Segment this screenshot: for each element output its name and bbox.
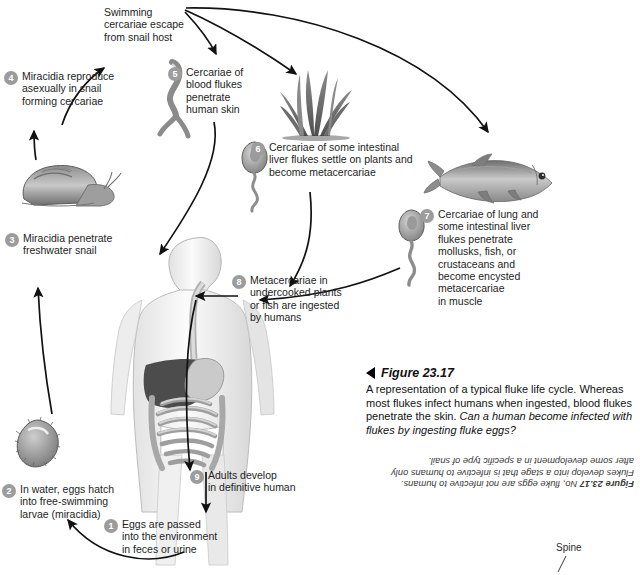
step-3-badge: 3 — [5, 233, 19, 247]
step-6-badge: 6 — [251, 142, 265, 156]
step-3: 3 Miracidia penetrate freshwater snail — [5, 232, 123, 257]
step-9-badge: 9 — [190, 470, 204, 484]
step-1-label: Eggs are passed into the environment in … — [122, 518, 217, 555]
aquatic-plant-illustration — [280, 70, 352, 141]
step-3-label: Miracidia penetrate freshwater snail — [23, 232, 112, 257]
step-7-label: Cercariae of lung and some intestinal li… — [438, 208, 538, 307]
step-6-label: Cercariae of some intestinal liver fluke… — [269, 141, 413, 178]
step-5-badge: 5 — [168, 67, 182, 81]
step-8: 8 Metacercariae in undercooked plants or… — [232, 274, 346, 324]
step-2-label: In water, eggs hatch into free-swimming … — [20, 483, 114, 520]
fish-illustration — [424, 154, 552, 203]
figure-caption-header: Figure 23.17 — [366, 366, 634, 380]
step-1: 1 Eggs are passed into the environment i… — [104, 518, 224, 555]
step-2: 2 In water, eggs hatch into free-swimmin… — [2, 483, 126, 520]
figure-caption: Figure 23.17 A representation of a typic… — [366, 366, 634, 437]
step-4-label: Miracidia reproduce asexually in snail f… — [22, 70, 114, 107]
step-7-badge: 7 — [420, 209, 434, 223]
figure-description-block: A representation of a typical fluke life… — [366, 383, 634, 437]
figure-answer-label: Figure 23.17 — [580, 479, 634, 489]
step-2-badge: 2 — [2, 484, 16, 498]
step-8-label: Metacercariae in undercooked plants or f… — [250, 274, 342, 324]
step-7: 7 Cercariae of lung and some intestinal … — [420, 208, 548, 307]
figure-number: Figure 23.17 — [381, 366, 454, 380]
figure-answer-inverted: Figure 23.17 No, fluke eggs are not infe… — [376, 455, 634, 489]
figure-canvas: Swimming cercariae escape from snail hos… — [0, 0, 640, 575]
step-1-badge: 1 — [104, 519, 118, 533]
step-4: 4 Miracidia reproduce asexually in snail… — [4, 70, 136, 107]
step-4-badge: 4 — [4, 71, 18, 85]
spine-label: Spine — [556, 542, 582, 553]
left-triangle-icon — [366, 367, 375, 379]
step-5-label: Cercariae of blood flukes penetrate huma… — [186, 66, 243, 116]
step-5: 5 Cercariae of blood flukes penetrate hu… — [168, 66, 246, 116]
step-9-label: Adults develop in definitive human — [208, 469, 296, 494]
miracidium-illustration — [15, 417, 60, 467]
spine-leader-line — [558, 556, 566, 572]
step-6: 6 Cercariae of some intestinal liver flu… — [251, 141, 431, 178]
swimming-cercariae-label: Swimming cercariae escape from snail hos… — [104, 6, 184, 43]
step-8-badge: 8 — [232, 275, 246, 289]
step-9: 9 Adults develop in definitive human — [190, 469, 310, 494]
snail-illustration — [22, 165, 121, 206]
